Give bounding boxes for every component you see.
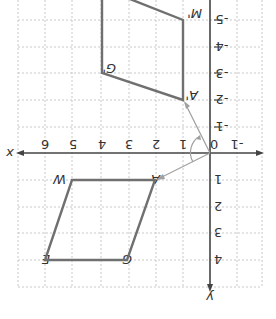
x-tick: -1 [231,137,244,152]
y-tick-marks [214,20,222,127]
x-axis-label: x [6,146,15,161]
y-axis-label: y [206,290,215,305]
x-axis-arrow-right-icon [256,150,264,156]
x-tick: 6 [41,137,49,152]
vertex-label-M-prime: M' [187,6,202,21]
parallelogram-image [102,0,183,100]
ray-to-A [158,153,210,179]
x-tick: 2 [152,137,160,152]
y-tick: 1 [214,172,222,187]
x-tick: 4 [98,137,106,152]
coordinate-diagram: x y -1 0 1 2 3 4 5 6 4 3 2 1 -1 -2 -3 -4… [0,0,276,319]
ray-to-A-prime [185,103,210,153]
arc-arrow-icon [196,135,201,140]
parallelogram-original [45,180,155,260]
y-tick: 2 [214,199,222,214]
vertex-label-A-prime: A' [186,88,199,103]
vertex-label-W: W [52,172,66,187]
x-tick: 3 [125,137,133,152]
x-tick: 0 [210,137,218,152]
x-tick: 5 [69,137,77,152]
y-tick: 4 [214,252,222,267]
y-tick: 3 [214,225,222,240]
x-axis-arrow-left-icon [16,150,24,156]
x-tick: 1 [179,137,187,152]
